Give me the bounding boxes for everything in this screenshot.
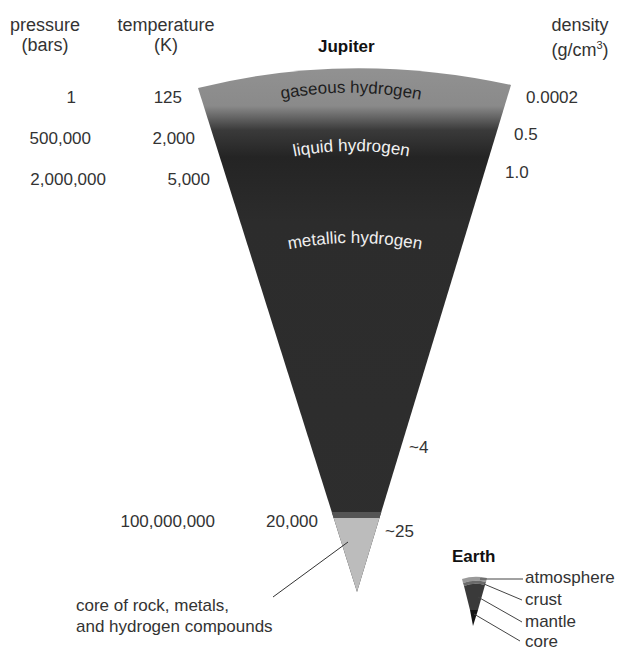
earth-title: Earth xyxy=(452,547,495,567)
earth-label-mantle: mantle xyxy=(525,612,576,632)
earth-label-crust: crust xyxy=(525,590,562,610)
crust-leader-line xyxy=(484,584,522,600)
earth-label-atmosphere: atmosphere xyxy=(525,568,615,588)
core-label: core of rock, metals, and hydrogen compo… xyxy=(76,595,273,637)
core-leader-line-earth xyxy=(474,614,520,641)
core-leader-line xyxy=(273,542,348,597)
earth-label-core: core xyxy=(525,632,558,651)
earth-wedge xyxy=(462,577,487,626)
core-boundary xyxy=(190,512,520,518)
mantle-leader-line xyxy=(478,597,522,622)
